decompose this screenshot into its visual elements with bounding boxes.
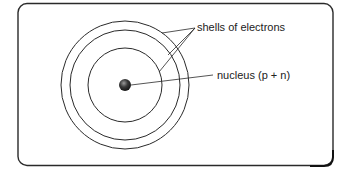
nucleus-label: nucleus (p + n) xyxy=(217,70,290,81)
diagram-border xyxy=(18,4,333,166)
nucleus xyxy=(119,79,131,91)
atom-diagram xyxy=(0,0,337,169)
shells-label: shells of electrons xyxy=(197,22,285,33)
